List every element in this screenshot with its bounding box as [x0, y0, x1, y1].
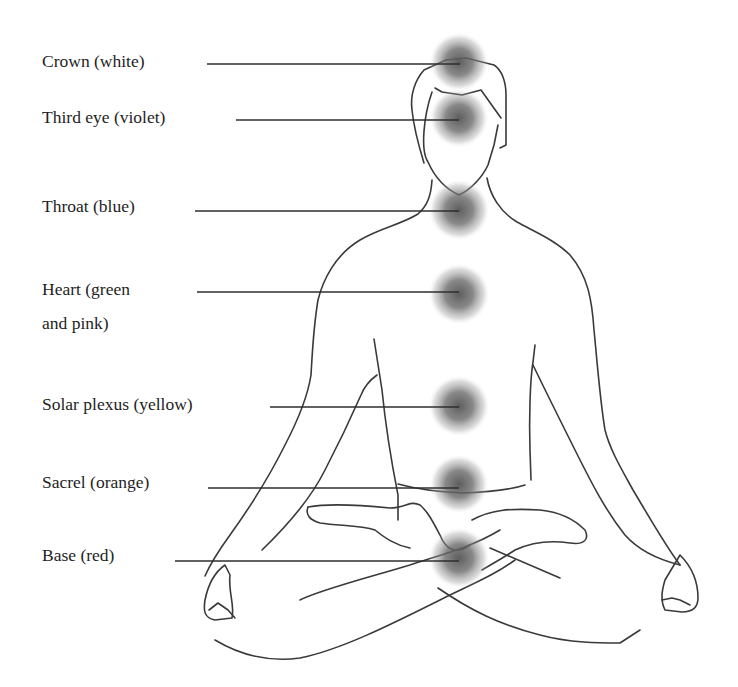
right-hand — [662, 555, 698, 612]
chakra-label-heart: Heart (green and pink) — [42, 272, 130, 340]
chakra-label-throat: Throat (blue) — [42, 189, 135, 223]
chakra-glow-solar-plexus — [428, 375, 490, 437]
chakra-glow-base — [428, 527, 490, 589]
chakra-glow-heart — [428, 263, 490, 325]
right-forearm — [533, 365, 680, 565]
chakra-label-solar-plexus: Solar plexus (yellow) — [42, 387, 193, 421]
chakra-glow-third-eye — [429, 88, 489, 148]
left-fingers — [209, 603, 235, 618]
left-arm-inner — [374, 339, 398, 520]
chakra-label-sacral: Sacrel (orange) — [42, 465, 149, 499]
right-shoulder — [487, 178, 680, 565]
left-foot-sole — [307, 507, 410, 548]
right-fingers — [662, 598, 690, 605]
left-forearm — [262, 375, 377, 550]
chakra-label-third-eye: Third eye (violet) — [42, 100, 165, 134]
chakra-glow-throat — [428, 179, 490, 241]
right-calf — [490, 548, 560, 578]
chakra-glow-sacral — [429, 454, 489, 514]
chakra-label-base: Base (red) — [42, 538, 114, 572]
chakra-label-crown: Crown (white) — [42, 44, 145, 78]
right-knee — [438, 588, 640, 643]
chakra-glow-crown — [429, 32, 489, 92]
